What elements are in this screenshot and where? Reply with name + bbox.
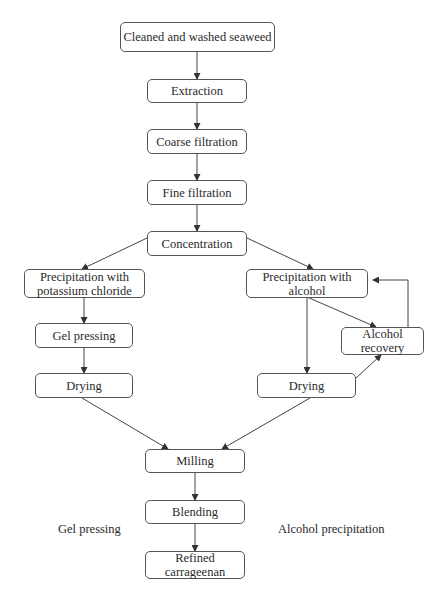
node-label-line1: Precipitation with <box>40 270 129 284</box>
node-label: Extraction <box>171 84 223 98</box>
node-alcohol-recovery: Alcohol recovery <box>341 327 424 355</box>
route-label-alcohol-precipitation: Alcohol precipitation <box>278 522 385 537</box>
node-label-line2: recovery <box>361 341 405 355</box>
node-label: Coarse filtration <box>156 135 238 149</box>
node-precipitation-alcohol: Precipitation with alcohol <box>246 269 368 298</box>
node-label: Drying <box>289 379 324 393</box>
node-precipitation-kcl: Precipitation with potassium chloride <box>24 269 145 298</box>
node-label: Cleaned and washed seaweed <box>123 30 271 44</box>
node-coarse-filtration: Coarse filtration <box>147 129 247 154</box>
node-blending: Blending <box>145 500 245 524</box>
node-label: Gel pressing <box>53 329 116 343</box>
node-gel-pressing: Gel pressing <box>35 323 133 348</box>
node-label: Milling <box>176 454 214 468</box>
node-label: Fine filtration <box>162 186 231 200</box>
node-cleaned-washed-seaweed: Cleaned and washed seaweed <box>120 22 275 52</box>
node-extraction: Extraction <box>147 79 247 103</box>
node-label: Drying <box>66 379 101 393</box>
node-concentration: Concentration <box>147 231 247 256</box>
node-label-line1: Alcohol <box>362 327 402 341</box>
node-label: Concentration <box>162 237 233 251</box>
node-label: Blending <box>172 505 218 519</box>
node-label-line1: Refined <box>175 551 215 565</box>
node-label-line2: carrageenan <box>165 565 225 579</box>
node-label-line1: Precipitation with <box>262 270 351 284</box>
node-label-line2: potassium chloride <box>37 284 132 298</box>
node-fine-filtration: Fine filtration <box>147 180 247 205</box>
route-label-gel-pressing: Gel pressing <box>58 522 121 537</box>
node-label-line2: alcohol <box>289 284 326 298</box>
node-drying-left: Drying <box>35 373 133 398</box>
node-milling: Milling <box>145 449 245 473</box>
node-drying-right: Drying <box>257 373 356 398</box>
node-refined-carrageenan: Refined carrageenan <box>145 551 245 579</box>
